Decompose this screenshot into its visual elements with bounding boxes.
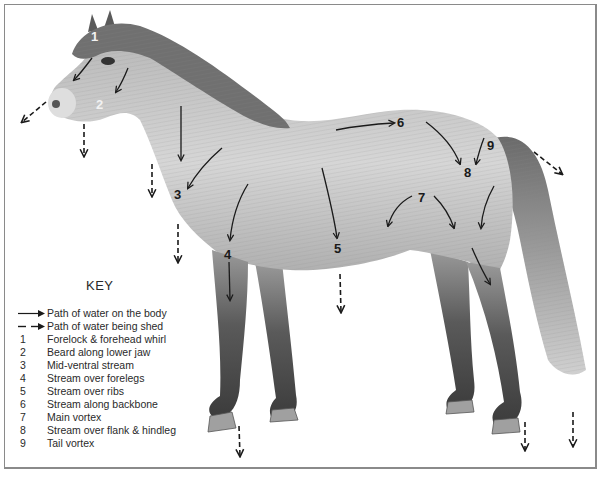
hooves — [208, 400, 520, 434]
horse-body — [48, 10, 513, 290]
dashed-arrow-icon — [18, 321, 46, 332]
figure-label-6: 6 — [397, 116, 404, 129]
figure-label-3: 3 — [174, 188, 181, 201]
figure-label-4: 4 — [224, 248, 231, 261]
key-title: KEY — [86, 278, 114, 293]
figure-label-9: 9 — [487, 139, 494, 152]
figure-label-7: 7 — [418, 191, 425, 204]
solid-arrow-icon — [18, 308, 46, 319]
near-legs — [209, 250, 521, 424]
far-legs — [255, 250, 475, 418]
figure-label-1: 1 — [91, 30, 98, 43]
figure-label-5: 5 — [334, 242, 341, 255]
figure-label-2: 2 — [96, 98, 103, 111]
figure-label-8: 8 — [464, 166, 471, 179]
